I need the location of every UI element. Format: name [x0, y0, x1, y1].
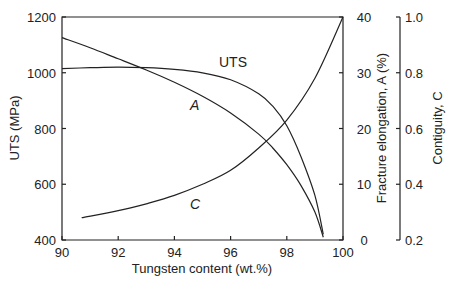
right2-tick-label: 1.0 [405, 10, 423, 25]
left-axis-ticks: 40060080010001200 [27, 10, 66, 248]
left-tick-label: 400 [34, 233, 56, 248]
left-tick-label: 1200 [27, 10, 56, 25]
left-tick-label: 600 [34, 177, 56, 192]
right2-tick-label: 0.4 [405, 177, 423, 192]
uts-curve-label: UTS [219, 54, 247, 70]
x-tick-label: 96 [223, 245, 237, 260]
a-curve-label: A [189, 97, 199, 113]
right2-tick-label: 0.2 [405, 233, 423, 248]
plot-area [62, 17, 343, 240]
right1-tick-label: 20 [357, 122, 371, 137]
x-tick-label: 94 [167, 245, 181, 260]
right1-tick-label: 0 [360, 233, 367, 248]
right2-tick-label: 0.6 [405, 122, 423, 137]
right1-tick-label: 30 [357, 66, 371, 81]
right1-tick-label: 40 [357, 10, 371, 25]
c-curve [82, 17, 343, 218]
curves [62, 17, 343, 237]
plot-frame [62, 17, 343, 240]
left-axis-title: UTS (MPa) [7, 96, 22, 161]
right-axis-contiguity-title: Contiguity, C [430, 91, 445, 164]
left-tick-label: 1000 [27, 66, 56, 81]
x-tick-label: 92 [111, 245, 125, 260]
c-curve-label: C [190, 196, 201, 212]
chart: 9092949698100 40060080010001200 01020304… [0, 0, 451, 285]
x-tick-label: 100 [332, 245, 354, 260]
right-axis-elongation-ticks: 010203040 [339, 10, 371, 248]
x-tick-label: 90 [55, 245, 69, 260]
x-axis-title: Tungsten content (wt.%) [132, 261, 272, 276]
left-tick-label: 800 [34, 122, 56, 137]
right2-tick-label: 0.8 [405, 66, 423, 81]
right-axis-elongation-title: Fracture elongation, A (%) [374, 53, 389, 203]
right1-tick-label: 10 [357, 177, 371, 192]
x-tick-label: 98 [280, 245, 294, 260]
